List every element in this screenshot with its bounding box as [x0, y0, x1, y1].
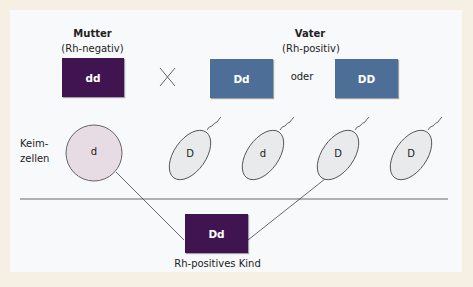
sperm-allele-3: D — [328, 148, 348, 159]
child-label: Rh-positives Kind — [160, 258, 275, 269]
father-genotype-box-1: Dd — [210, 59, 273, 98]
egg-allele: d — [84, 146, 104, 157]
or-label: oder — [282, 71, 322, 82]
father-title: Vater — [280, 28, 340, 39]
father-genotype-box-2: DD — [335, 59, 398, 98]
sperm-to-child-line — [248, 175, 330, 240]
cross-icon — [160, 68, 175, 86]
gametes-label-line1: Keim- — [20, 138, 48, 149]
sperm-allele-1: D — [180, 148, 200, 159]
egg-to-child-line — [116, 172, 184, 240]
child-genotype-box: Dd — [185, 214, 248, 253]
mother-title: Mutter — [60, 28, 125, 39]
father-subtitle: (Rh-positiv) — [272, 43, 350, 54]
mother-genotype-box: dd — [62, 58, 124, 97]
sperm-allele-2: d — [253, 148, 273, 159]
mother-subtitle: (Rh-negativ) — [55, 43, 130, 54]
gametes-label-line2: zellen — [20, 153, 49, 164]
sperm-allele-4: D — [401, 148, 421, 159]
